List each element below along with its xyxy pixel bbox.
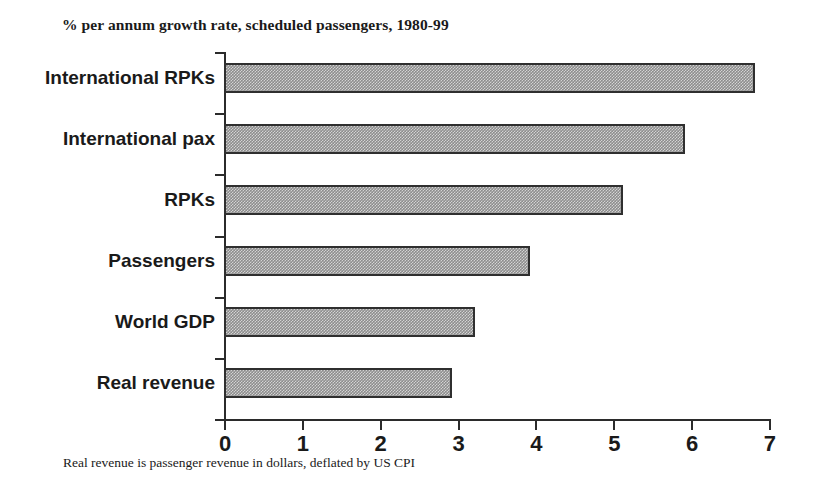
x-axis-tick — [769, 419, 771, 430]
bar — [224, 185, 623, 215]
bar — [224, 124, 685, 154]
category-label: International pax — [0, 128, 215, 150]
x-axis-tick — [535, 419, 537, 430]
category-label: International RPKs — [0, 67, 215, 89]
category-label: Passengers — [0, 250, 215, 272]
x-axis-tick — [458, 419, 460, 430]
x-axis-tick — [302, 419, 304, 430]
x-axis-tick — [691, 419, 693, 430]
plot-area: 01234567International RPKsInternational … — [0, 0, 818, 495]
chart-figure: % per annum growth rate, scheduled passe… — [0, 0, 818, 495]
bar — [224, 246, 530, 276]
x-axis-tick-label: 3 — [439, 432, 479, 456]
y-axis-tick — [215, 358, 225, 360]
y-axis-tick — [215, 419, 225, 421]
x-axis-tick — [380, 419, 382, 430]
y-axis-tick — [215, 174, 225, 176]
category-label: World GDP — [0, 311, 215, 333]
x-axis-tick-label: 0 — [205, 432, 245, 456]
x-axis-tick-label: 1 — [283, 432, 323, 456]
bar — [224, 368, 452, 398]
bar — [224, 63, 755, 93]
category-label: Real revenue — [0, 372, 215, 394]
x-axis-line — [224, 419, 771, 421]
x-axis-tick-label: 2 — [361, 432, 401, 456]
x-axis-tick-label: 5 — [594, 432, 634, 456]
y-axis-tick — [215, 236, 225, 238]
chart-footnote: Real revenue is passenger revenue in dol… — [63, 455, 415, 471]
x-axis-tick-label: 7 — [750, 432, 790, 456]
x-axis-tick — [613, 419, 615, 430]
y-axis-tick — [215, 113, 225, 115]
bar — [224, 307, 475, 337]
x-axis-tick-label: 4 — [516, 432, 556, 456]
y-axis-cap-tick — [215, 52, 225, 54]
category-label: RPKs — [0, 189, 215, 211]
x-axis-tick-label: 6 — [672, 432, 712, 456]
y-axis-tick — [215, 297, 225, 299]
